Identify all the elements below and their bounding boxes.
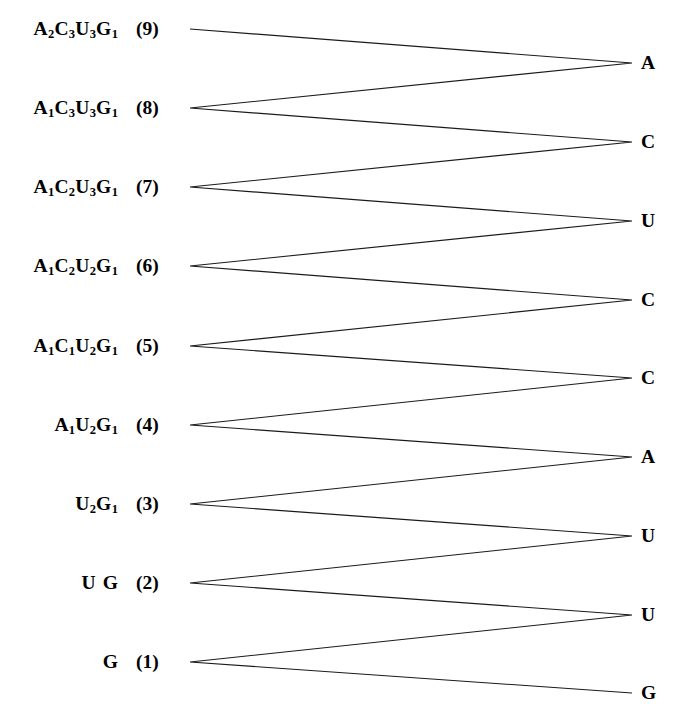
row-index-label: (4) (136, 414, 182, 436)
composition-label: A1U2G1 (54, 414, 118, 436)
left-row: A2C3U3G1(9) (0, 14, 182, 44)
left-row: A1U2G1(4) (0, 410, 182, 440)
right-base-letter: C (641, 289, 655, 311)
zigzag-polyline (190, 29, 632, 693)
row-index-label: (9) (136, 18, 182, 40)
row-index-label: (7) (136, 176, 182, 198)
right-base-letter: A (641, 52, 655, 74)
right-base-letter: U (641, 525, 655, 547)
composition-label: A1C1U2G1 (34, 335, 118, 357)
left-row: A1C3U3G1(8) (0, 93, 182, 123)
composition-label: A2C3U3G1 (34, 18, 118, 40)
composition-label: A1C3U3G1 (34, 97, 118, 119)
row-index-label: (1) (136, 651, 182, 673)
row-index-label: (5) (136, 335, 182, 357)
left-row: UG(2) (0, 568, 182, 598)
left-row: A1C1U2G1(5) (0, 331, 182, 361)
composition-label: U2G1 (75, 493, 118, 515)
left-row: A1C2U3G1(7) (0, 172, 182, 202)
row-index-label: (8) (136, 97, 182, 119)
composition-label: G (103, 651, 118, 673)
right-base-letter: A (641, 446, 655, 468)
left-row: G(1) (0, 647, 182, 677)
right-base-letter: C (641, 131, 655, 153)
composition-label: UG (82, 572, 118, 594)
row-index-label: (6) (136, 255, 182, 277)
right-base-letter: U (641, 210, 655, 232)
left-row: U2G1(3) (0, 489, 182, 519)
left-row: A1C2U2G1(6) (0, 251, 182, 281)
composition-label: A1C2U3G1 (34, 176, 118, 198)
right-base-letter: G (641, 682, 656, 704)
rna-ladder-figure: A2C3U3G1(9)A1C3U3G1(8)A1C2U3G1(7)A1C2U2G… (0, 0, 686, 719)
row-index-label: (3) (136, 493, 182, 515)
right-base-letter: C (641, 367, 655, 389)
row-index-label: (2) (136, 572, 182, 594)
right-base-letter: U (641, 604, 655, 626)
composition-label: A1C2U2G1 (34, 255, 118, 277)
